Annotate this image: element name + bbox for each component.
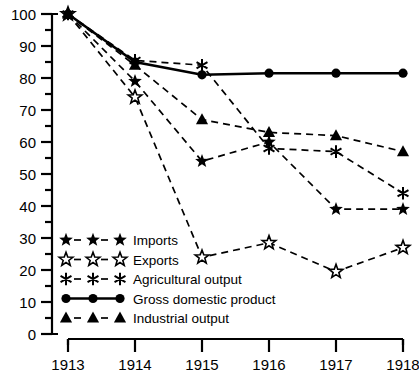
series-line-industrial-output xyxy=(68,14,403,152)
chart-legend: ImportsExportsAgricultural outputGross d… xyxy=(59,233,276,326)
series-line-agricultural-output xyxy=(68,14,403,193)
series-line-gross-domestic-product xyxy=(68,14,403,75)
x-axis-line xyxy=(68,339,403,345)
marker-agricultural-output xyxy=(264,142,275,155)
y-tick-label: 80 xyxy=(19,70,36,87)
legend-marker xyxy=(113,252,127,265)
y-tick-label: 0 xyxy=(28,326,36,343)
legend-marker xyxy=(114,312,126,323)
series-line-imports xyxy=(68,14,403,209)
legend-marker xyxy=(86,233,100,246)
y-tick-label: 70 xyxy=(19,102,36,119)
marker-industrial-output xyxy=(196,113,208,124)
legend-marker xyxy=(59,233,73,246)
legend-marker xyxy=(86,252,100,265)
marker-exports xyxy=(396,240,410,253)
marker-gross-domestic-product xyxy=(264,69,273,78)
x-axis-tick-labels: 191319141915191619171918 xyxy=(51,356,419,373)
legend-item-gross-domestic-product: Gross domestic product xyxy=(61,292,275,307)
y-axis-line xyxy=(52,14,58,334)
marker-imports xyxy=(396,202,410,215)
legend-marker xyxy=(115,273,126,286)
x-tick-label: 1913 xyxy=(51,356,84,373)
series-lines-group xyxy=(68,14,403,272)
legend-item-agricultural-output: Agricultural output xyxy=(61,272,243,287)
y-tick-label: 60 xyxy=(19,134,36,151)
marker-exports xyxy=(195,250,209,263)
marker-exports xyxy=(329,264,343,277)
marker-imports xyxy=(329,202,343,215)
y-axis-tick-labels: 0102030405060708090100 xyxy=(11,6,36,343)
legend-label: Industrial output xyxy=(133,311,229,326)
legend-marker xyxy=(88,273,99,286)
legend-marker xyxy=(59,252,73,265)
x-tick-label: 1918 xyxy=(386,356,419,373)
legend-label: Imports xyxy=(133,233,178,248)
y-tick-label: 20 xyxy=(19,262,36,279)
legend-marker xyxy=(113,233,127,246)
x-tick-label: 1915 xyxy=(185,356,218,373)
marker-gross-domestic-product xyxy=(398,69,407,78)
marker-gross-domestic-product xyxy=(197,70,206,79)
legend-marker xyxy=(60,312,72,323)
y-tick-label: 30 xyxy=(19,230,36,247)
chart-container: 0102030405060708090100 19131914191519161… xyxy=(0,0,419,373)
marker-gross-domestic-product xyxy=(331,69,340,78)
legend-marker xyxy=(61,273,72,286)
y-tick-label: 90 xyxy=(19,38,36,55)
legend-marker xyxy=(61,294,70,303)
legend-item-industrial-output: Industrial output xyxy=(60,311,229,326)
x-tick-label: 1917 xyxy=(319,356,352,373)
x-axis-ticks xyxy=(68,339,403,352)
line-chart: 0102030405060708090100 19131914191519161… xyxy=(0,0,419,373)
x-tick-label: 1916 xyxy=(252,356,285,373)
marker-agricultural-output xyxy=(398,187,409,200)
marker-industrial-output xyxy=(397,145,409,156)
legend-marker xyxy=(115,294,124,303)
legend-marker xyxy=(87,312,99,323)
legend-label: Gross domestic product xyxy=(133,292,276,307)
legend-item-exports: Exports xyxy=(59,252,179,267)
y-tick-label: 10 xyxy=(19,294,36,311)
y-tick-label: 40 xyxy=(19,198,36,215)
y-tick-label: 100 xyxy=(11,6,36,23)
legend-label: Agricultural output xyxy=(133,272,242,287)
marker-exports xyxy=(262,236,276,249)
legend-item-imports: Imports xyxy=(59,233,178,248)
x-tick-label: 1914 xyxy=(118,356,151,373)
legend-label: Exports xyxy=(133,253,179,268)
legend-marker xyxy=(88,294,97,303)
y-tick-label: 50 xyxy=(19,166,36,183)
